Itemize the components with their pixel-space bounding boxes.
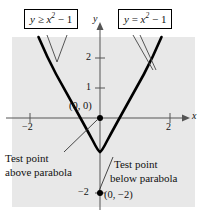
- x-axis-label: x: [192, 111, 196, 121]
- point-origin-dot: [97, 115, 103, 121]
- point-zero-neg-two-label: (0, −2): [104, 190, 133, 201]
- x-tick-label-2: 2: [166, 122, 171, 132]
- note-below-parabola-line2: below parabola: [110, 172, 178, 185]
- y-axis-arrow: [97, 22, 104, 30]
- equation-relation: =: [132, 13, 138, 25]
- figure-container: y ≥ x2 − 1 y = x2 − 1 y x −2 2 2 1 −2 (0…: [0, 0, 207, 223]
- equation-callout-box: y = x2 − 1: [118, 9, 172, 29]
- equation-lhs: y: [124, 13, 129, 25]
- inequality-callout-box: y ≥ x2 − 1: [24, 9, 78, 29]
- y-tick-label-neg2: −2: [78, 187, 89, 197]
- note-above-parabola-line2: above parabola: [5, 166, 72, 179]
- y-axis-label: y: [93, 14, 97, 24]
- leader-inequality: [47, 35, 67, 62]
- note-above-parabola-line1: Test point: [5, 152, 49, 165]
- point-zero-neg-two-dot: [97, 190, 103, 196]
- y-tick-label-2: 2: [86, 52, 91, 62]
- inequality-tail: − 1: [58, 13, 72, 25]
- y-tick-label-1: 1: [86, 82, 91, 92]
- equation-exponent: 2: [146, 11, 150, 20]
- inequality-lhs: y: [30, 13, 35, 25]
- equation-tail: − 1: [152, 13, 166, 25]
- point-origin-label: (0, 0): [69, 101, 92, 112]
- x-axis-arrow: [182, 115, 190, 122]
- x-tick-label-neg2: −2: [22, 122, 33, 132]
- inequality-relation: ≥: [38, 13, 44, 25]
- note-below-parabola-line1: Test point: [114, 158, 158, 171]
- leader-above-note: [64, 120, 97, 152]
- leader-equation-a: [133, 35, 153, 70]
- inequality-exponent: 2: [51, 11, 55, 20]
